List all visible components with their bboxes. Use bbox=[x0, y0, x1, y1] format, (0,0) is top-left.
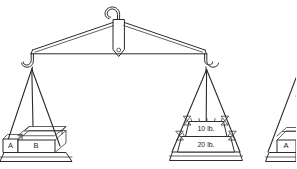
partial-right-figure: A bbox=[266, 78, 297, 162]
fulcrum-shackle bbox=[113, 20, 124, 57]
diagram-canvas: A B bbox=[0, 0, 296, 169]
partial-block-a-label: A bbox=[283, 141, 288, 150]
block-b-label: B bbox=[33, 141, 38, 150]
block-a-label: A bbox=[8, 141, 13, 150]
fulcrum-pivot-hole bbox=[117, 48, 121, 52]
left-balance-pan: A B bbox=[0, 69, 72, 162]
top-suspension-hook bbox=[105, 7, 120, 20]
right-balance-pan: 20 lb. 10 lb. bbox=[170, 70, 243, 161]
partial-pan-platform bbox=[266, 153, 297, 162]
weight-20lb-label: 20 lb. bbox=[197, 141, 214, 148]
partial-top-slab bbox=[277, 128, 296, 137]
partial-block-a: A bbox=[277, 131, 296, 153]
left-pan-platform bbox=[0, 153, 72, 162]
weight-10lb-label: 10 lb. bbox=[197, 125, 214, 132]
left-beam-hook bbox=[22, 54, 34, 71]
right-pan-platform bbox=[170, 152, 243, 161]
right-beam-hook bbox=[205, 54, 219, 71]
